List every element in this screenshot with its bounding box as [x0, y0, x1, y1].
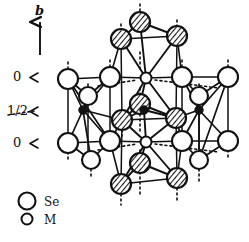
legend-m-circle-icon — [22, 214, 33, 225]
se-atom-hatched — [167, 168, 187, 188]
se-atom-open — [172, 67, 192, 87]
se-atom-open — [172, 131, 192, 151]
legend-label-m: M — [44, 214, 56, 226]
level-label-bottom: 0 — [13, 136, 21, 149]
se-atom-open — [218, 131, 238, 151]
se-atom-open — [190, 151, 208, 169]
se-atom-hatched — [112, 110, 132, 130]
m-atom-open — [141, 73, 152, 84]
legend-symbols — [19, 193, 36, 225]
se-atom-open — [190, 87, 208, 105]
se-atom-open — [100, 67, 120, 87]
m-atom-filled — [195, 106, 203, 114]
se-atom-hatched — [111, 29, 131, 49]
se-atom-open — [58, 69, 78, 89]
se-atom-hatched — [166, 108, 186, 128]
legend-se-circle-icon — [19, 193, 36, 210]
se-atom-open — [218, 67, 238, 87]
se-atom-open — [58, 133, 78, 153]
se-atom-hatched — [111, 174, 131, 194]
m-atom-open — [141, 137, 152, 148]
level-label-top: 0 — [13, 70, 21, 83]
b-axis-label: b — [35, 4, 44, 17]
legend-label-se: Se — [44, 196, 59, 208]
se-atom-hatched — [130, 153, 150, 173]
crystal-structure-figure — [0, 0, 249, 242]
level-label-middle: 1/2 — [7, 104, 28, 117]
se-atom-open — [79, 87, 97, 105]
se-atom-open — [100, 131, 120, 151]
se-atom-hatched — [167, 26, 187, 46]
m-atom-filled — [79, 106, 87, 114]
m-atom-filled — [140, 106, 148, 114]
se-atom-open — [82, 151, 100, 169]
se-atom-hatched — [130, 12, 150, 32]
